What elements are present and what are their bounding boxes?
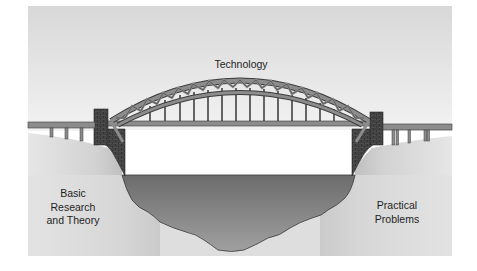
- left-tower: [94, 109, 108, 145]
- bridge-span-opening: [122, 130, 355, 176]
- label-left-line-1: Basic: [40, 187, 106, 201]
- main-road-deck: [108, 121, 370, 126]
- label-left-line-2: Research: [40, 201, 106, 215]
- label-practical-problems: Practical Problems: [365, 199, 429, 226]
- label-technology-text: Technology: [212, 58, 270, 72]
- label-right-line-2: Problems: [365, 213, 429, 227]
- right-approach-deck: [383, 124, 452, 130]
- label-left-line-3: and Theory: [40, 214, 106, 228]
- label-basic-research-and-theory: Basic Research and Theory: [40, 187, 106, 228]
- left-approach-deck: [28, 122, 95, 128]
- right-tower: [370, 112, 383, 145]
- bridge-diagram: Technology Basic Research and Theory Pra…: [0, 0, 477, 271]
- bridge-illustration: [0, 0, 477, 271]
- label-right-line-1: Practical: [365, 199, 429, 213]
- label-technology: Technology: [212, 58, 270, 72]
